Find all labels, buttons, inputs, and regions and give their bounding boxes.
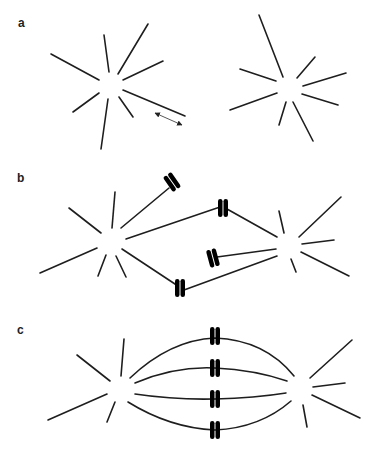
panel-a: a bbox=[18, 15, 346, 149]
panel-b: b bbox=[17, 171, 349, 297]
panel-label-c: c bbox=[17, 323, 24, 337]
mitosis-diagram: a b bbox=[0, 0, 378, 459]
aster-right bbox=[303, 340, 360, 427]
aster-left bbox=[48, 339, 124, 422]
chromosome-metaphase-1 bbox=[210, 327, 220, 345]
aster-left bbox=[40, 188, 220, 286]
aster-right bbox=[230, 15, 346, 141]
chromosome-mono-attached bbox=[163, 172, 182, 192]
panel-c: c bbox=[17, 323, 360, 439]
spindle-fibers bbox=[128, 338, 294, 430]
chromosome-bioriented bbox=[175, 279, 185, 297]
aster-left bbox=[51, 24, 185, 149]
panel-label-a: a bbox=[18, 16, 25, 30]
chromosome-bioriented bbox=[218, 199, 228, 217]
double-arrow-icon bbox=[155, 113, 182, 125]
chromosome-mono-attached bbox=[206, 248, 220, 268]
panel-label-b: b bbox=[17, 171, 24, 185]
